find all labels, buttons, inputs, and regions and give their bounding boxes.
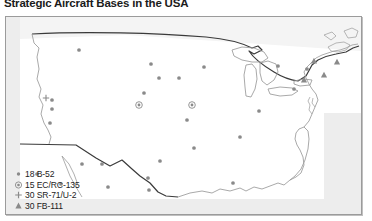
map-panel: 18 B-52 15 EC/RC-135 30 SR-71/U-2 [5, 16, 362, 215]
map-marker-triangle [311, 58, 317, 64]
map-marker-dot [292, 87, 296, 91]
map-legend: 18 B-52 15 EC/RC-135 30 SR-71/U-2 [13, 169, 80, 211]
legend-label-ec-rc135: 15 EC/RC-135 [25, 180, 80, 191]
legend-item-fb111: 30 FB-111 [13, 201, 80, 212]
map-marker-circled-dot [189, 102, 196, 109]
map-marker-dot [157, 76, 161, 80]
legend-item-b52: 18 B-52 [13, 169, 80, 180]
map-marker-triangle [321, 72, 327, 78]
west-coastline [32, 34, 51, 144]
great-lakes [232, 47, 312, 97]
map-marker-dot [158, 159, 162, 163]
circled-dot-icon [13, 180, 24, 190]
map-marker-layer [35, 48, 340, 192]
map-marker-dot [147, 188, 151, 192]
triangle-icon [13, 201, 24, 211]
map-marker-dot [202, 65, 206, 69]
map-marker-circled-dot [136, 102, 143, 109]
map-marker-dot [100, 162, 104, 166]
chesapeake-detail [308, 97, 315, 114]
map-marker-dot [276, 64, 280, 68]
map-marker-dot [146, 176, 150, 180]
map-marker-dot [305, 67, 309, 71]
map-marker-dot [185, 118, 189, 122]
east-coastline [304, 63, 318, 127]
map-marker-dot [238, 135, 242, 139]
plus-icon [13, 190, 24, 200]
legend-label-b52: 18 B-52 [25, 169, 54, 180]
page-title: Strategic Aircraft Bases in the USA [4, 0, 188, 10]
florida-coastline [290, 127, 309, 180]
map-marker-plus [43, 95, 49, 101]
map-marker-dot [177, 76, 181, 80]
legend-label-sr71-u2: 30 SR-71/U-2 [25, 190, 76, 201]
map-marker-dot [48, 121, 52, 125]
map-marker-triangle [334, 59, 340, 65]
map-marker-dot [231, 181, 235, 185]
map-marker-dot [142, 91, 146, 95]
map-marker-dot [80, 162, 84, 166]
legend-item-ec-rc135: 15 EC/RC-135 [13, 180, 80, 191]
map-marker-dot [149, 62, 153, 66]
land-shading-north [20, 17, 361, 51]
dot-icon [13, 169, 24, 179]
map-marker-dot [192, 146, 196, 150]
map-marker-dot [257, 109, 261, 113]
map-marker-dot [50, 107, 54, 111]
legend-item-sr71-u2: 30 SR-71/U-2 [13, 190, 80, 201]
map-marker-dot [77, 48, 81, 52]
legend-label-fb111: 30 FB-111 [25, 201, 63, 212]
map-marker-dot [50, 98, 54, 102]
map-marker-dot [106, 185, 110, 189]
